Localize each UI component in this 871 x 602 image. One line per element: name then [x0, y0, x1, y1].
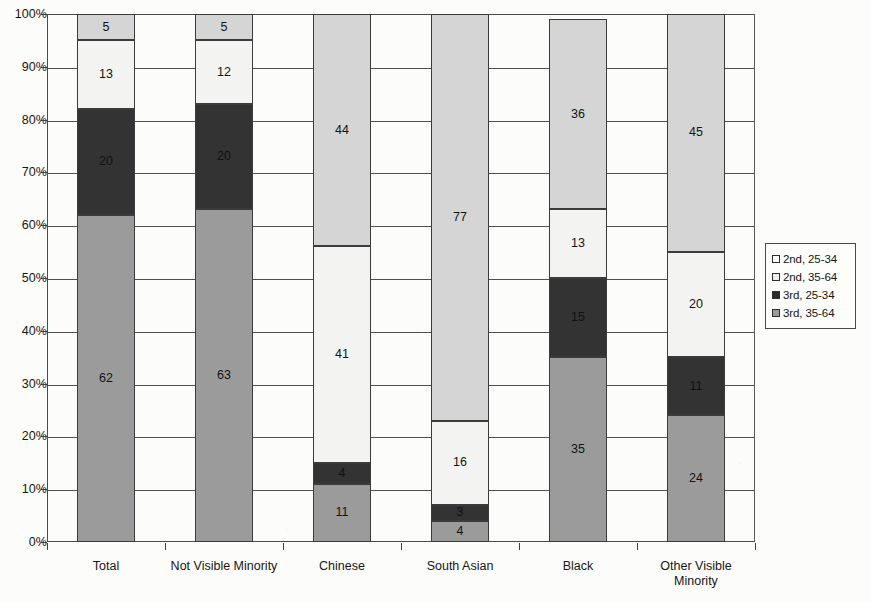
- legend-swatch-icon: [772, 273, 780, 281]
- x-axis-category-label: Chinese: [287, 559, 397, 574]
- x-axis-category-label: Black: [523, 559, 633, 574]
- bar-segment[interactable]: 11: [313, 484, 371, 542]
- bar-segment-value-label: 20: [99, 155, 113, 168]
- x-axis-category-label: Other Visible Minority: [641, 559, 751, 588]
- x-axis-tick-mark: [165, 543, 166, 550]
- bar-segment[interactable]: 20: [77, 109, 135, 215]
- bar-segment-value-label: 11: [336, 506, 349, 519]
- x-axis-tick-mark: [283, 543, 284, 550]
- bar-segment-value-label: 13: [99, 68, 113, 81]
- bar-segment[interactable]: 4: [313, 463, 371, 484]
- gridline: [48, 332, 754, 333]
- y-axis: 0%10%20%30%40%50%60%70%80%90%100%: [0, 0, 47, 556]
- bar-segment[interactable]: 5: [195, 14, 253, 40]
- bar-segment[interactable]: 3: [431, 505, 489, 521]
- stacked-bar[interactable]: 24112045: [667, 14, 725, 542]
- gridline: [48, 121, 754, 122]
- bar-segment[interactable]: 15: [549, 278, 607, 357]
- bar-segment-value-label: 44: [335, 124, 349, 137]
- bar-segment-value-label: 62: [99, 372, 113, 385]
- bar-segment[interactable]: 24: [667, 415, 725, 542]
- bar-segment[interactable]: 16: [431, 421, 489, 505]
- x-axis-tick-mark: [401, 543, 402, 550]
- plot-area: [47, 14, 755, 542]
- legend-item[interactable]: 3rd, 25-34: [772, 286, 851, 304]
- gridline: [48, 279, 754, 280]
- x-axis-tick-mark: [519, 543, 520, 550]
- x-axis-tick-mark: [637, 543, 638, 550]
- stacked-bar[interactable]: 431677: [431, 14, 489, 542]
- bar-segment[interactable]: 13: [77, 40, 135, 109]
- bar-segment[interactable]: 35: [549, 357, 607, 542]
- legend-item[interactable]: 2nd, 35-64: [772, 268, 851, 286]
- bar-segment-value-label: 35: [571, 443, 585, 456]
- bar-segment-value-label: 11: [690, 380, 703, 393]
- bar-segment-value-label: 20: [689, 298, 703, 311]
- legend-swatch-icon: [772, 309, 780, 317]
- stacked-bar[interactable]: 6220135: [77, 14, 135, 542]
- bar-segment[interactable]: 62: [77, 215, 135, 542]
- legend-item-label: 3rd, 25-34: [783, 289, 834, 301]
- bar-segment-value-label: 15: [571, 311, 585, 324]
- bar-segment[interactable]: 63: [195, 209, 253, 542]
- gridline: [48, 437, 754, 438]
- bar-segment-value-label: 24: [689, 472, 703, 485]
- legend-item-label: 2nd, 25-34: [783, 253, 837, 265]
- bar-segment-value-label: 77: [453, 211, 467, 224]
- legend-swatch-icon: [772, 255, 780, 263]
- bar-segment-value-label: 13: [571, 237, 585, 250]
- bar-segment[interactable]: 45: [667, 14, 725, 252]
- bar-segment[interactable]: 41: [313, 246, 371, 462]
- bar-segment[interactable]: 13: [549, 209, 607, 278]
- legend-item-label: 3rd, 35-64: [783, 307, 834, 319]
- gridline: [48, 490, 754, 491]
- x-axis-tick-mark: [47, 543, 48, 550]
- legend-item[interactable]: 2nd, 25-34: [772, 250, 851, 268]
- bar-segment[interactable]: 12: [195, 40, 253, 103]
- gridline: [48, 385, 754, 386]
- gridline: [48, 226, 754, 227]
- chart-legend: 2nd, 25-342nd, 35-643rd, 25-343rd, 35-64: [765, 243, 856, 329]
- x-axis-category-label: South Asian: [405, 559, 515, 574]
- x-axis-category-label: Total: [51, 559, 161, 574]
- bar-segment-value-label: 41: [335, 348, 349, 361]
- legend-swatch-icon: [772, 291, 780, 299]
- stacked-bar-chart: 0%10%20%30%40%50%60%70%80%90%100% 622013…: [0, 0, 871, 602]
- bar-segment-value-label: 3: [457, 506, 464, 519]
- x-axis-category-label: Not Visible Minority: [169, 559, 279, 574]
- bar-segment[interactable]: 4: [431, 521, 489, 542]
- legend-item-label: 2nd, 35-64: [783, 271, 837, 283]
- bar-segment-value-label: 45: [689, 126, 703, 139]
- bar-segment[interactable]: 44: [313, 14, 371, 246]
- stacked-bar[interactable]: 6320125: [195, 14, 253, 542]
- bar-segment[interactable]: 20: [195, 104, 253, 210]
- bar-segment-value-label: 63: [217, 369, 231, 382]
- bar-segment-value-label: 4: [339, 467, 346, 480]
- bar-segment[interactable]: 20: [667, 252, 725, 358]
- bar-segment[interactable]: 36: [549, 19, 607, 209]
- bar-segment[interactable]: 5: [77, 14, 135, 40]
- gridline: [48, 68, 754, 69]
- legend-item[interactable]: 3rd, 35-64: [772, 304, 851, 322]
- bar-segment-value-label: 16: [453, 456, 467, 469]
- stacked-bar[interactable]: 1144144: [313, 14, 371, 542]
- gridline: [48, 173, 754, 174]
- bar-segment-value-label: 12: [217, 66, 231, 79]
- bar-segment-value-label: 5: [221, 21, 228, 34]
- bar-segment-value-label: 4: [457, 525, 464, 538]
- bar-segment-value-label: 5: [103, 21, 110, 34]
- bar-segment[interactable]: 11: [667, 357, 725, 415]
- bar-segment-value-label: 20: [217, 150, 231, 163]
- stacked-bar[interactable]: 35151336: [549, 14, 607, 542]
- x-axis-tick-mark: [755, 543, 756, 550]
- bar-segment-value-label: 36: [571, 108, 585, 121]
- bar-segment[interactable]: 77: [431, 14, 489, 421]
